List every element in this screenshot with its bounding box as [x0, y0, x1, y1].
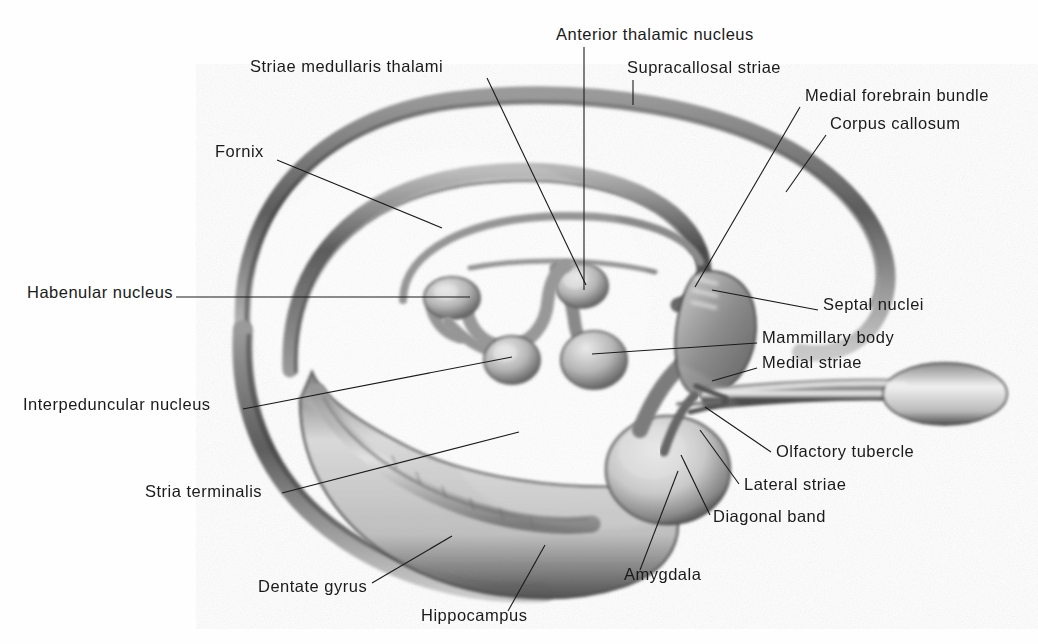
label-olfactory-tubercle: Olfactory tubercle	[776, 443, 914, 460]
label-diagonal-band: Diagonal band	[713, 508, 826, 525]
label-hippocampus: Hippocampus	[421, 607, 527, 624]
label-septal-nuclei: Septal nuclei	[823, 296, 924, 313]
label-medial-forebrain-bundle: Medial forebrain bundle	[805, 87, 989, 104]
label-mammillary-body: Mammillary body	[762, 329, 894, 346]
label-fornix: Fornix	[215, 143, 264, 160]
label-interpeduncular-nucleus: Interpeduncular nucleus	[23, 396, 211, 413]
label-habenular-nucleus: Habenular nucleus	[27, 284, 173, 301]
label-striae-medullaris-thalami: Striae medullaris thalami	[250, 58, 443, 75]
label-supracallosal-striae: Supracallosal striae	[627, 59, 781, 76]
figure-page: Anterior thalamic nucleusSupracallosal s…	[0, 0, 1038, 644]
label-dentate-gyrus: Dentate gyrus	[258, 578, 367, 595]
olfactory-bulb	[712, 363, 1007, 425]
label-stria-terminalis: Stria terminalis	[145, 483, 262, 500]
label-corpus-callosum: Corpus callosum	[830, 115, 960, 132]
label-lateral-striae: Lateral striae	[744, 476, 846, 493]
label-amygdala: Amygdala	[624, 566, 701, 583]
label-anterior-thalamic-nucleus: Anterior thalamic nucleus	[556, 26, 754, 43]
label-medial-striae: Medial striae	[762, 354, 862, 371]
